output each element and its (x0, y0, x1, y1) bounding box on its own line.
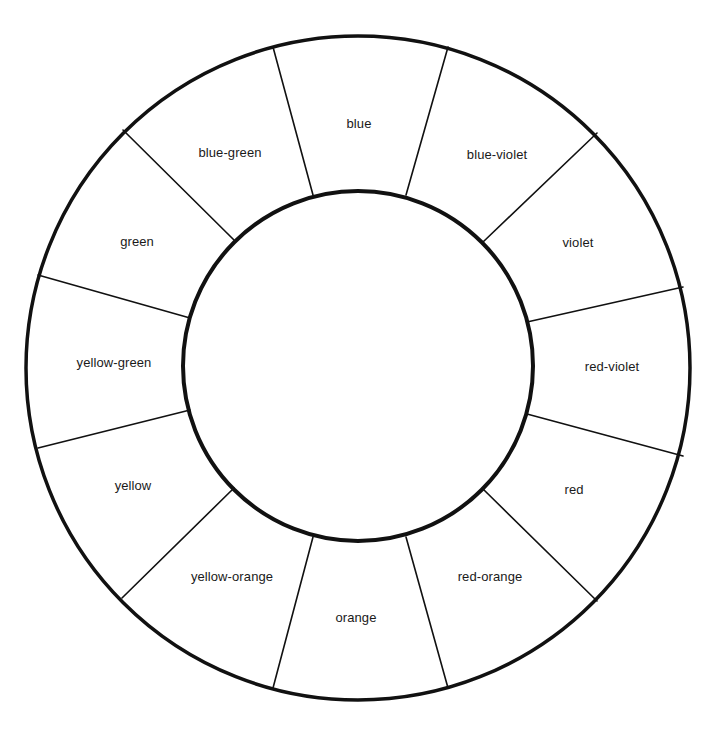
segment-label-violet: violet (563, 235, 594, 250)
divider (406, 47, 448, 195)
divider (483, 489, 597, 601)
divider (273, 537, 313, 688)
divider (273, 47, 313, 195)
segment-label-red-violet: red-violet (585, 359, 639, 374)
segment-label-red: red (564, 482, 583, 497)
segment-label-green: green (120, 234, 154, 249)
divider (38, 410, 190, 448)
segment-label-yellow-orange: yellow-orange (191, 569, 273, 584)
divider (527, 414, 683, 456)
segment-label-yellow: yellow (115, 478, 152, 493)
segment-label-orange: orange (335, 610, 376, 625)
segment-label-blue-green: blue-green (198, 145, 261, 160)
divider (527, 287, 683, 322)
segment-label-blue: blue (347, 116, 372, 131)
divider (38, 275, 190, 318)
divider (406, 537, 448, 688)
segment-label-yellow-green: yellow-green (77, 355, 152, 370)
segment-label-red-orange: red-orange (458, 569, 523, 584)
inner-circle (183, 191, 533, 541)
segment-label-blue-violet: blue-violet (467, 147, 527, 162)
